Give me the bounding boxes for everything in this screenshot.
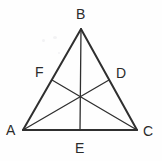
midpoint-label-D: D xyxy=(116,66,126,80)
median-BE xyxy=(80,29,81,130)
scan-speck xyxy=(42,39,45,42)
triangle-diagram-canvas xyxy=(0,0,162,161)
vertex-label-C: C xyxy=(143,124,153,138)
scan-speck xyxy=(58,52,60,54)
geometry-figure: B A C F D E xyxy=(0,0,162,161)
scan-speck xyxy=(53,36,57,39)
midpoint-label-F: F xyxy=(35,65,44,79)
vertex-label-A: A xyxy=(6,123,15,137)
vertex-label-B: B xyxy=(76,7,85,21)
midpoint-label-E: E xyxy=(75,141,84,155)
